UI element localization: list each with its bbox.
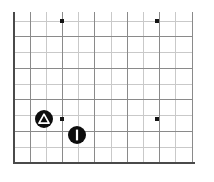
grid-major-horizontal-lines <box>14 37 192 163</box>
grid-canvas <box>0 0 214 182</box>
axis-lines <box>13 12 195 164</box>
grid-plot-figure <box>0 0 214 182</box>
grid-minor-horizontal-lines <box>14 21 192 147</box>
